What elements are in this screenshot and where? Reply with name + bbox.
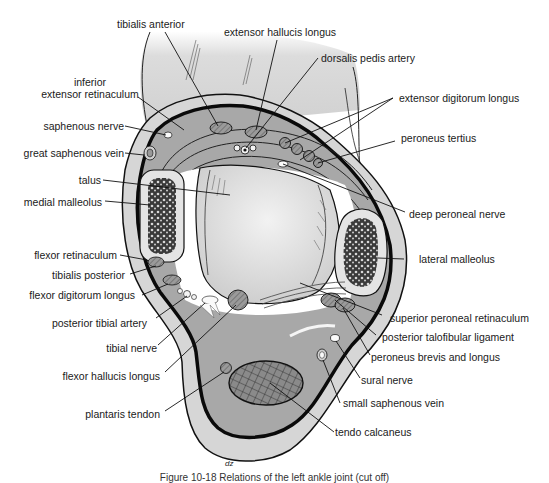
lateral-malleolus-bone bbox=[335, 209, 387, 296]
label-peroneus-brevis-and-longus: peroneus brevis and longus bbox=[371, 351, 500, 363]
label-line-1: inferior bbox=[40, 76, 140, 88]
artist-signature: dz bbox=[225, 459, 233, 468]
label-great-saphenous-vein: great saphenous vein bbox=[24, 147, 124, 159]
label-inferior-extensor-retinaculum: inferior extensor retinaculum bbox=[40, 76, 140, 100]
label-tibialis-anterior: tibialis anterior bbox=[117, 18, 185, 30]
label-tibialis-posterior: tibialis posterior bbox=[52, 269, 125, 281]
label-saphenous-nerve: saphenous nerve bbox=[43, 120, 124, 132]
label-extensor-hallucis-longus: extensor hallucis longus bbox=[224, 26, 336, 38]
label-deep-peroneal-nerve: deep peroneal nerve bbox=[409, 208, 505, 220]
label-superior-peroneal-retinaculum: superior peroneal retinaculum bbox=[390, 312, 529, 324]
label-peroneus-tertius: peroneus tertius bbox=[401, 132, 476, 144]
medial-malleolus-bone bbox=[140, 170, 184, 262]
label-flexor-hallucis-longus: flexor hallucis longus bbox=[63, 370, 160, 382]
figure-caption: Figure 10-18 Relations of the left ankle… bbox=[0, 472, 549, 483]
label-small-saphenous-vein: small saphenous vein bbox=[343, 397, 444, 409]
label-posterior-talofibular-ligament: posterior talofibular ligament bbox=[382, 331, 514, 343]
label-medial-malleolus: medial malleolus bbox=[24, 196, 102, 208]
label-tendo-calcaneus: tendo calcaneus bbox=[335, 426, 411, 438]
label-extensor-digitorum-longus: extensor digitorum longus bbox=[399, 92, 519, 104]
talus-bone bbox=[196, 165, 339, 303]
label-posterior-tibial-artery: posterior tibial artery bbox=[52, 317, 147, 329]
label-dorsalis-pedis-artery: dorsalis pedis artery bbox=[321, 52, 415, 64]
label-flexor-digitorum-longus: flexor digitorum longus bbox=[29, 289, 135, 301]
label-line-2: extensor retinaculum bbox=[40, 88, 140, 100]
label-lateral-malleolus: lateral malleolus bbox=[419, 253, 495, 265]
label-sural-nerve: sural nerve bbox=[361, 374, 413, 386]
label-flexor-retinaculum: flexor retinaculum bbox=[34, 249, 117, 261]
label-tibial-nerve: tibial nerve bbox=[106, 342, 157, 354]
label-plantaris-tendon: plantaris tendon bbox=[85, 408, 160, 420]
label-talus: talus bbox=[79, 174, 101, 186]
